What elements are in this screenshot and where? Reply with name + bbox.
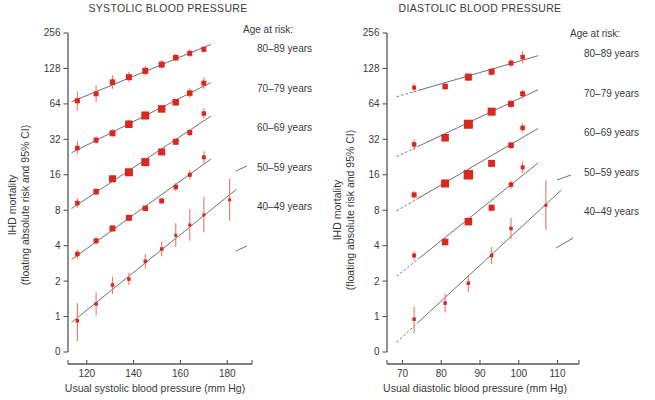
- x-tick-label: 100: [510, 368, 527, 379]
- diastolic-y-axis-label-line1: IHD mortality: [331, 179, 343, 240]
- data-point-marker: [412, 86, 416, 90]
- legend-leader-line-1: [557, 175, 571, 180]
- legend-item-5: 40–49 years: [257, 201, 312, 212]
- data-point-marker: [76, 319, 80, 323]
- legend-item-3: 60–69 years: [257, 122, 312, 133]
- data-point-marker: [441, 134, 449, 142]
- data-point-marker: [443, 301, 447, 305]
- trend-line-extrapolated: [397, 259, 418, 276]
- legend-leader-line-2: [556, 238, 573, 248]
- legend-item-4: 50–59 years: [584, 167, 639, 178]
- data-point-marker: [521, 165, 525, 169]
- data-point-marker: [489, 69, 495, 75]
- legend-heading: Age at risk:: [570, 28, 620, 39]
- y-tick-label: 2: [55, 276, 61, 287]
- diastolic-chart-svg: DIASTOLIC BLOOD PRESSURE 012481632641282…: [325, 0, 655, 400]
- x-tick-label: 160: [172, 368, 189, 379]
- data-point-marker: [467, 281, 471, 285]
- y-tick-label: 128: [363, 63, 380, 74]
- trend-line: [418, 163, 538, 259]
- y-tick-label: 128: [44, 63, 61, 74]
- series-3: [72, 108, 211, 209]
- data-point-marker: [187, 90, 193, 96]
- data-point-marker: [509, 182, 514, 187]
- data-point-marker: [465, 218, 473, 226]
- x-tick-label: 90: [474, 368, 486, 379]
- data-point-marker: [126, 74, 132, 80]
- legend-item-2: 70–79 years: [257, 83, 312, 94]
- panel-systolic: SYSTOLIC BLOOD PRESSURE 0124816326412825…: [0, 0, 330, 400]
- series-3: [397, 123, 538, 211]
- data-point-marker: [187, 130, 192, 135]
- data-point-marker: [158, 148, 165, 155]
- data-point-marker: [173, 55, 179, 61]
- y-tick-label: 32: [368, 134, 380, 145]
- data-point-marker: [173, 185, 178, 190]
- x-tick-label: 140: [125, 368, 142, 379]
- data-point-marker: [75, 146, 80, 151]
- series-4: [72, 151, 211, 259]
- data-point-marker: [442, 84, 448, 90]
- data-point-marker: [509, 227, 513, 231]
- legend-leader-line-2: [236, 246, 247, 251]
- data-point-marker: [144, 259, 148, 263]
- y-tick-label: 1: [374, 311, 380, 322]
- data-point-marker: [94, 238, 99, 243]
- x-tick-label: 110: [550, 368, 566, 379]
- data-point-marker: [94, 138, 99, 143]
- legend-item-2: 70–79 years: [584, 88, 639, 99]
- y-tick-label: 8: [55, 205, 61, 216]
- diastolic-plot-area: 01248163264128256708090100110: [363, 27, 579, 379]
- figure-root: SYSTOLIC BLOOD PRESSURE 0124816326412825…: [0, 0, 655, 400]
- data-point-marker: [126, 215, 132, 221]
- data-point-marker: [508, 143, 514, 149]
- data-point-marker: [109, 175, 116, 182]
- data-point-marker: [202, 155, 206, 159]
- systolic-x-axis-label: Usual systolic blood pressure (mm Hg): [65, 382, 245, 394]
- data-point-marker: [159, 62, 165, 68]
- trend-line-extrapolated: [397, 91, 418, 97]
- legend-item-4: 50–59 years: [257, 162, 312, 173]
- data-point-marker: [442, 239, 449, 246]
- series-5: [397, 180, 562, 342]
- data-point-marker: [201, 81, 206, 86]
- data-point-marker: [143, 206, 149, 212]
- data-point-marker: [75, 98, 80, 103]
- data-point-marker: [125, 120, 133, 128]
- y-tick-label: 8: [374, 205, 380, 216]
- data-point-marker: [520, 126, 525, 130]
- x-tick-label: 180: [219, 368, 236, 379]
- y-tick-label: 16: [368, 169, 380, 180]
- trend-line-extrapolated: [397, 146, 418, 156]
- diastolic-chart-title: DIASTOLIC BLOOD PRESSURE: [399, 2, 562, 14]
- data-point-marker: [508, 101, 514, 107]
- legend-heading: Age at risk:: [243, 24, 293, 35]
- data-point-marker: [173, 139, 179, 145]
- data-point-marker: [228, 198, 231, 201]
- data-point-marker: [158, 105, 166, 113]
- data-point-marker: [172, 99, 179, 106]
- legend-item-3: 60–69 years: [584, 127, 639, 138]
- legend-item-5: 40–49 years: [584, 206, 639, 217]
- data-point-marker: [141, 111, 149, 119]
- systolic-y-axis-label-line2: (floating absolute risk and 95% CI): [19, 125, 31, 286]
- data-point-marker: [464, 120, 473, 129]
- y-tick-label: 64: [49, 98, 61, 109]
- data-point-marker: [188, 173, 192, 177]
- data-point-marker: [188, 223, 191, 226]
- data-point-marker: [412, 142, 417, 147]
- data-point-marker: [110, 130, 116, 136]
- y-tick-label: 4: [55, 240, 61, 251]
- trend-line: [418, 56, 538, 91]
- systolic-chart-title: SYSTOLIC BLOOD PRESSURE: [88, 2, 247, 14]
- systolic-y-axis-label-line1: IHD mortality: [6, 174, 18, 235]
- data-point-marker: [201, 47, 206, 52]
- trend-line-extrapolated: [397, 323, 418, 343]
- panel-diastolic: DIASTOLIC BLOOD PRESSURE 012481632641282…: [325, 0, 655, 400]
- x-tick-label: 80: [436, 368, 448, 379]
- data-point-marker: [94, 302, 98, 306]
- data-point-marker: [187, 51, 192, 56]
- data-point-marker: [490, 254, 494, 258]
- data-point-marker: [520, 91, 525, 96]
- trend-line: [418, 90, 538, 147]
